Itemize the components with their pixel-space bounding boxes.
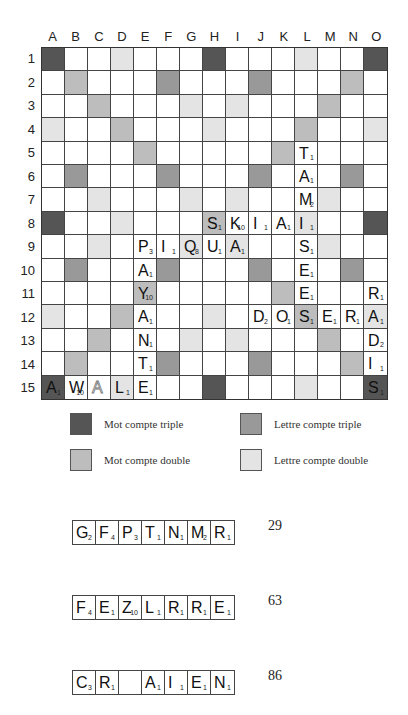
board-cell-A7[interactable] [42, 188, 65, 211]
board-cell-M13[interactable] [318, 329, 341, 352]
board-cell-O13[interactable]: D2 [364, 329, 387, 352]
board-cell-G8[interactable] [180, 212, 203, 235]
board-cell-M9[interactable] [318, 235, 341, 258]
board-cell-K2[interactable] [272, 71, 295, 94]
board-cell-A2[interactable] [42, 71, 65, 94]
board-cell-J7[interactable] [249, 188, 272, 211]
board-cell-K11[interactable] [272, 282, 295, 305]
board-cell-L13[interactable] [295, 329, 318, 352]
board-cell-I2[interactable] [226, 71, 249, 94]
board-cell-D11[interactable] [111, 282, 134, 305]
board-cell-B14[interactable] [65, 352, 88, 375]
board-cell-B1[interactable] [65, 48, 88, 71]
board-cell-O7[interactable] [364, 188, 387, 211]
board-cell-B11[interactable] [65, 282, 88, 305]
board-cell-E9[interactable]: P3 [134, 235, 157, 258]
board-cell-F10[interactable] [157, 259, 180, 282]
board-cell-J4[interactable] [249, 118, 272, 141]
board-cell-G12[interactable] [180, 305, 203, 328]
board-cell-G15[interactable] [180, 376, 203, 399]
board-cell-F4[interactable] [157, 118, 180, 141]
board-cell-C11[interactable] [88, 282, 111, 305]
board-cell-C6[interactable] [88, 165, 111, 188]
board-cell-F7[interactable] [157, 188, 180, 211]
board-cell-J2[interactable] [249, 71, 272, 94]
board-cell-H4[interactable] [203, 118, 226, 141]
board-cell-G4[interactable] [180, 118, 203, 141]
board-cell-J9[interactable] [249, 235, 272, 258]
rack-tile[interactable]: E1 [211, 596, 234, 619]
board-cell-A5[interactable] [42, 142, 65, 165]
board-cell-O1[interactable] [364, 48, 387, 71]
board-cell-A10[interactable] [42, 259, 65, 282]
board-cell-J3[interactable] [249, 95, 272, 118]
rack-tile[interactable]: G2 [73, 521, 96, 544]
board-cell-L10[interactable]: E1 [295, 259, 318, 282]
board-cell-C5[interactable] [88, 142, 111, 165]
board-cell-M8[interactable] [318, 212, 341, 235]
board-cell-H9[interactable]: U1 [203, 235, 226, 258]
board-cell-K7[interactable] [272, 188, 295, 211]
board-cell-C15[interactable]: A [88, 376, 111, 399]
board-cell-G7[interactable] [180, 188, 203, 211]
board-cell-F12[interactable] [157, 305, 180, 328]
rack-tile[interactable]: R1 [188, 596, 211, 619]
board-cell-C14[interactable] [88, 352, 111, 375]
board-cell-J11[interactable] [249, 282, 272, 305]
board-cell-O15[interactable]: S1 [364, 376, 387, 399]
board-cell-A13[interactable] [42, 329, 65, 352]
board-cell-F9[interactable]: I1 [157, 235, 180, 258]
rack-tile[interactable]: R1 [96, 671, 119, 694]
board-cell-M1[interactable] [318, 48, 341, 71]
rack-tile[interactable]: A1 [142, 671, 165, 694]
board-cell-E8[interactable] [134, 212, 157, 235]
board-cell-E10[interactable]: A1 [134, 259, 157, 282]
board-cell-M14[interactable] [318, 352, 341, 375]
board-cell-I14[interactable] [226, 352, 249, 375]
board-cell-O6[interactable] [364, 165, 387, 188]
board-cell-C1[interactable] [88, 48, 111, 71]
board-cell-N6[interactable] [341, 165, 364, 188]
board-cell-I6[interactable] [226, 165, 249, 188]
board-cell-F11[interactable] [157, 282, 180, 305]
board-cell-L8[interactable]: I1 [295, 212, 318, 235]
board-cell-N10[interactable] [341, 259, 364, 282]
board-cell-E6[interactable] [134, 165, 157, 188]
board-cell-M2[interactable] [318, 71, 341, 94]
board-cell-L3[interactable] [295, 95, 318, 118]
board-cell-L5[interactable]: T1 [295, 142, 318, 165]
board-cell-I1[interactable] [226, 48, 249, 71]
board-cell-F14[interactable] [157, 352, 180, 375]
board-cell-B6[interactable] [65, 165, 88, 188]
board-cell-F13[interactable] [157, 329, 180, 352]
board-cell-M7[interactable] [318, 188, 341, 211]
board-cell-O10[interactable] [364, 259, 387, 282]
board-cell-D15[interactable]: L1 [111, 376, 134, 399]
board-cell-H10[interactable] [203, 259, 226, 282]
board-cell-G5[interactable] [180, 142, 203, 165]
board-cell-N15[interactable] [341, 376, 364, 399]
board-cell-F5[interactable] [157, 142, 180, 165]
board-cell-F1[interactable] [157, 48, 180, 71]
board-cell-K3[interactable] [272, 95, 295, 118]
rack-tile[interactable]: T1 [142, 521, 165, 544]
board-cell-C2[interactable] [88, 71, 111, 94]
board-cell-A4[interactable] [42, 118, 65, 141]
board-cell-N13[interactable] [341, 329, 364, 352]
board-cell-E12[interactable]: A1 [134, 305, 157, 328]
board-cell-O5[interactable] [364, 142, 387, 165]
board-cell-O12[interactable]: A1 [364, 305, 387, 328]
board-cell-I9[interactable]: A1 [226, 235, 249, 258]
board-cell-L9[interactable]: S1 [295, 235, 318, 258]
board-cell-G10[interactable] [180, 259, 203, 282]
board-cell-O4[interactable] [364, 118, 387, 141]
board-cell-C4[interactable] [88, 118, 111, 141]
board-cell-K15[interactable] [272, 376, 295, 399]
board-cell-E14[interactable]: T1 [134, 352, 157, 375]
rack-tile[interactable]: E1 [188, 671, 211, 694]
rack-tile[interactable]: R1 [165, 596, 188, 619]
board-cell-M6[interactable] [318, 165, 341, 188]
board-cell-M12[interactable]: E1 [318, 305, 341, 328]
board-cell-M10[interactable] [318, 259, 341, 282]
board-cell-E15[interactable]: E1 [134, 376, 157, 399]
